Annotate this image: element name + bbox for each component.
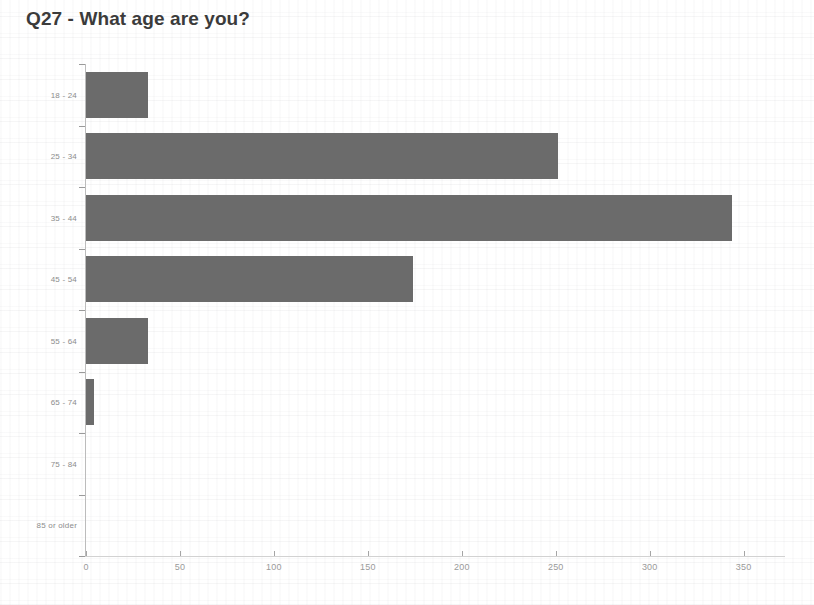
x-axis-tick (650, 551, 651, 556)
y-axis-tick (79, 495, 85, 496)
bar-row: 25 - 34 (86, 126, 785, 188)
y-axis-category-label: 85 or older (37, 521, 77, 530)
bar (86, 318, 148, 364)
bar (86, 256, 413, 302)
y-axis-tick (79, 126, 85, 127)
y-axis-category-label: 55 - 64 (51, 336, 77, 345)
x-axis-tick-label: 0 (83, 562, 88, 572)
bar-row: 55 - 64 (86, 310, 785, 372)
chart-title: Q27 - What age are you? (26, 8, 250, 30)
y-axis-tick (79, 64, 85, 65)
bar-row: 75 - 84 (86, 433, 785, 495)
y-axis-tick (79, 187, 85, 188)
bar-row: 45 - 54 (86, 249, 785, 311)
x-axis-tick-label: 200 (454, 562, 470, 572)
bar (86, 72, 148, 118)
x-axis-tick (274, 551, 275, 556)
y-axis-category-label: 18 - 24 (51, 90, 77, 99)
y-axis-category-label: 45 - 54 (51, 275, 77, 284)
y-axis-category-label: 65 - 74 (51, 398, 77, 407)
x-axis-tick (368, 551, 369, 556)
bar-chart-plot-area: 18 - 2425 - 3435 - 4445 - 5455 - 6465 - … (0, 0, 814, 605)
bar-row: 18 - 24 (86, 64, 785, 126)
bar (86, 133, 558, 179)
x-axis-tick (462, 551, 463, 556)
y-axis-category-label: 75 - 84 (51, 459, 77, 468)
x-axis-tick (556, 551, 557, 556)
x-axis-tick-label: 300 (642, 562, 658, 572)
y-axis-tick (79, 556, 85, 557)
x-axis-tick-label: 50 (175, 562, 185, 572)
x-axis-tick-label: 150 (360, 562, 376, 572)
bar-row: 65 - 74 (86, 372, 785, 434)
x-axis-line (85, 556, 785, 557)
y-axis-category-label: 25 - 34 (51, 152, 77, 161)
y-axis-category-label: 35 - 44 (51, 213, 77, 222)
x-axis-tick (180, 551, 181, 556)
y-axis-tick (79, 249, 85, 250)
bar (86, 195, 732, 241)
x-axis-tick-label: 100 (266, 562, 282, 572)
y-axis-tick (79, 372, 85, 373)
bar (86, 379, 94, 425)
bar-row: 85 or older (86, 495, 785, 557)
bar-row: 35 - 44 (86, 187, 785, 249)
x-axis-tick-label: 350 (736, 562, 752, 572)
y-axis-tick (79, 310, 85, 311)
x-axis-tick (86, 551, 87, 556)
y-axis-tick (79, 433, 85, 434)
x-axis-tick-label: 250 (548, 562, 564, 572)
x-axis-tick (744, 551, 745, 556)
